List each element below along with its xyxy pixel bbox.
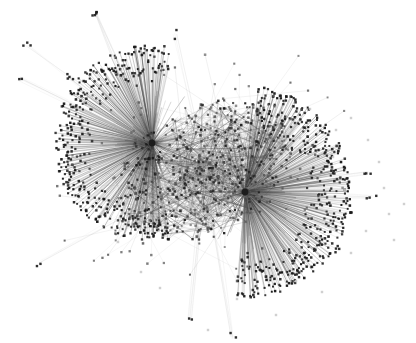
network-graph-canvas bbox=[0, 0, 416, 343]
network-graph-figure bbox=[0, 0, 416, 343]
